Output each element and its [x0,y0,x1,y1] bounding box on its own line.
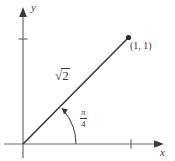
radical-group: √2 [55,68,70,82]
arc-arrowhead [62,108,68,115]
radicand: 2 [61,68,70,82]
fraction-group: π 4 [80,108,87,130]
angle-label: π 4 [80,108,87,130]
fraction-denominator: 4 [80,120,87,129]
y-axis [19,7,28,158]
x-axis [4,140,164,149]
figure-canvas [0,0,175,161]
math-figure: y x (1, 1) √2 π 4 [0,0,175,161]
point-label: (1, 1) [130,41,152,51]
fraction-numerator: π [80,108,87,117]
ray-segment [23,35,131,144]
angle-arc [62,108,77,144]
y-axis-label: y [31,2,36,13]
segment-length-label: √2 [55,68,70,82]
x-axis-label: x [160,147,165,158]
